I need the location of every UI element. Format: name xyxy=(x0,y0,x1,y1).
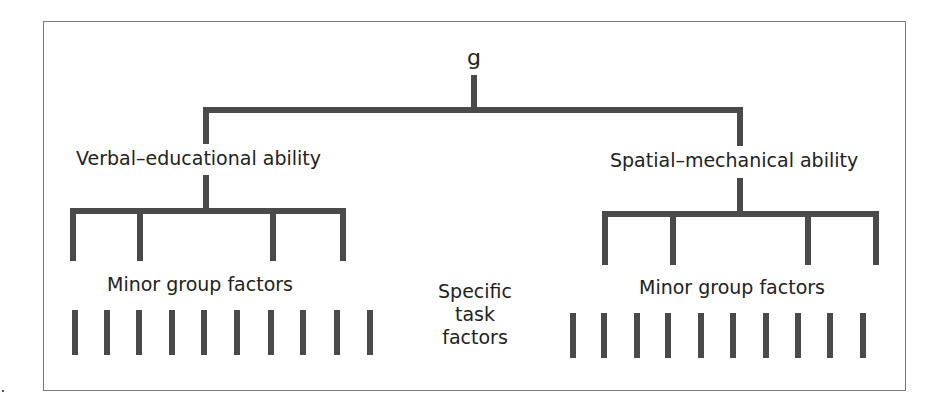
specific-line-3: factors xyxy=(442,326,508,348)
right-minor-group-label: Minor group factors xyxy=(639,276,825,298)
root-label-g: g xyxy=(467,47,481,69)
verbal-educational-label: Verbal–educational ability xyxy=(76,147,321,169)
specific-line-2: task xyxy=(455,303,495,325)
diagram-canvas: g Verbal–educational ability Spatial–mec… xyxy=(0,0,934,411)
specific-line-1: Specific xyxy=(438,280,512,302)
left-minor-group-label: Minor group factors xyxy=(107,273,293,295)
spatial-mechanical-label: Spatial–mechanical ability xyxy=(610,149,858,171)
